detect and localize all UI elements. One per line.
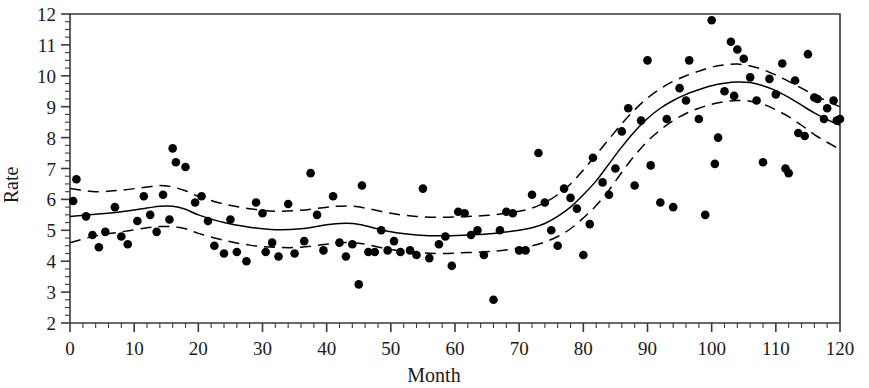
data-point xyxy=(637,116,646,125)
data-point xyxy=(139,192,148,201)
data-point xyxy=(123,240,132,249)
data-point xyxy=(675,84,684,93)
data-point xyxy=(553,241,562,250)
data-point xyxy=(165,215,174,224)
data-point xyxy=(534,149,543,158)
data-point xyxy=(589,153,598,162)
data-point xyxy=(695,115,704,124)
data-point xyxy=(829,96,838,105)
data-point xyxy=(133,217,142,226)
data-point xyxy=(791,76,800,85)
data-point xyxy=(274,252,283,261)
y-tick-label: 2 xyxy=(47,313,57,334)
data-point xyxy=(630,181,639,190)
data-point xyxy=(252,198,261,207)
data-point xyxy=(669,203,678,212)
y-tick-label: 9 xyxy=(47,97,57,118)
data-point xyxy=(733,45,742,54)
data-point xyxy=(813,95,822,104)
data-point xyxy=(496,226,505,235)
data-point xyxy=(146,211,155,220)
data-point xyxy=(579,251,588,260)
data-point xyxy=(611,164,620,173)
data-point xyxy=(804,50,813,59)
data-point xyxy=(836,115,845,124)
data-point xyxy=(69,197,78,206)
x-tick-label: 10 xyxy=(125,338,144,359)
data-point xyxy=(117,232,126,241)
x-tick-label: 0 xyxy=(65,338,75,359)
data-point xyxy=(752,96,761,105)
data-point xyxy=(242,257,251,266)
data-point xyxy=(605,190,614,199)
data-point xyxy=(772,90,781,99)
data-point xyxy=(707,16,716,25)
x-axis-title: Month xyxy=(407,364,460,386)
data-point xyxy=(284,200,293,209)
data-point xyxy=(435,240,444,249)
data-point xyxy=(197,192,206,201)
data-point xyxy=(383,246,392,255)
data-point xyxy=(701,211,710,220)
data-point xyxy=(419,184,428,193)
data-point xyxy=(348,240,357,249)
data-point xyxy=(335,238,344,247)
data-point xyxy=(168,144,177,153)
y-axis-title: Rate xyxy=(0,167,22,204)
x-tick-label: 50 xyxy=(381,338,400,359)
data-point xyxy=(72,175,81,184)
data-point xyxy=(390,237,399,246)
data-point xyxy=(560,184,569,193)
data-point xyxy=(319,246,328,255)
x-tick-label: 40 xyxy=(317,338,336,359)
data-point xyxy=(258,209,267,218)
data-point xyxy=(181,163,190,172)
data-point xyxy=(268,238,277,247)
data-point xyxy=(159,190,168,199)
data-point xyxy=(172,158,181,167)
data-point xyxy=(480,251,489,260)
data-point xyxy=(800,132,809,141)
data-point xyxy=(412,251,421,260)
data-point xyxy=(370,248,379,257)
x-tick-label: 100 xyxy=(697,338,726,359)
data-point xyxy=(152,228,161,237)
data-point xyxy=(377,226,386,235)
data-point xyxy=(191,198,200,207)
data-point xyxy=(261,248,270,257)
data-point xyxy=(820,115,829,124)
data-point xyxy=(95,243,104,252)
data-point xyxy=(220,249,229,258)
y-tick-label: 5 xyxy=(47,220,57,241)
chart-figure: 0102030405060708090100110120 23456789101… xyxy=(0,0,869,388)
y-tick-label: 11 xyxy=(38,35,56,56)
data-point xyxy=(441,232,450,241)
data-point xyxy=(618,127,627,136)
data-point xyxy=(541,198,550,207)
data-point xyxy=(342,252,351,261)
x-tick-label: 30 xyxy=(253,338,272,359)
data-point xyxy=(473,226,482,235)
data-point xyxy=(290,249,299,258)
data-point xyxy=(624,104,633,113)
data-point xyxy=(306,169,315,178)
data-point xyxy=(598,178,607,187)
data-point xyxy=(233,248,242,257)
data-point xyxy=(101,228,110,237)
data-point xyxy=(396,248,405,257)
data-point xyxy=(528,190,537,199)
data-point xyxy=(759,158,768,167)
data-point xyxy=(646,161,655,170)
data-point xyxy=(585,220,594,229)
data-point xyxy=(425,254,434,263)
data-point xyxy=(300,237,309,246)
y-tick-label: 7 xyxy=(47,159,57,180)
x-tick-label: 60 xyxy=(446,338,465,359)
data-point xyxy=(714,133,723,142)
y-tick-label: 6 xyxy=(47,189,57,210)
data-point xyxy=(643,56,652,65)
data-point xyxy=(727,38,736,47)
data-point xyxy=(682,96,691,105)
plot-background xyxy=(0,0,869,388)
data-point xyxy=(778,59,787,68)
